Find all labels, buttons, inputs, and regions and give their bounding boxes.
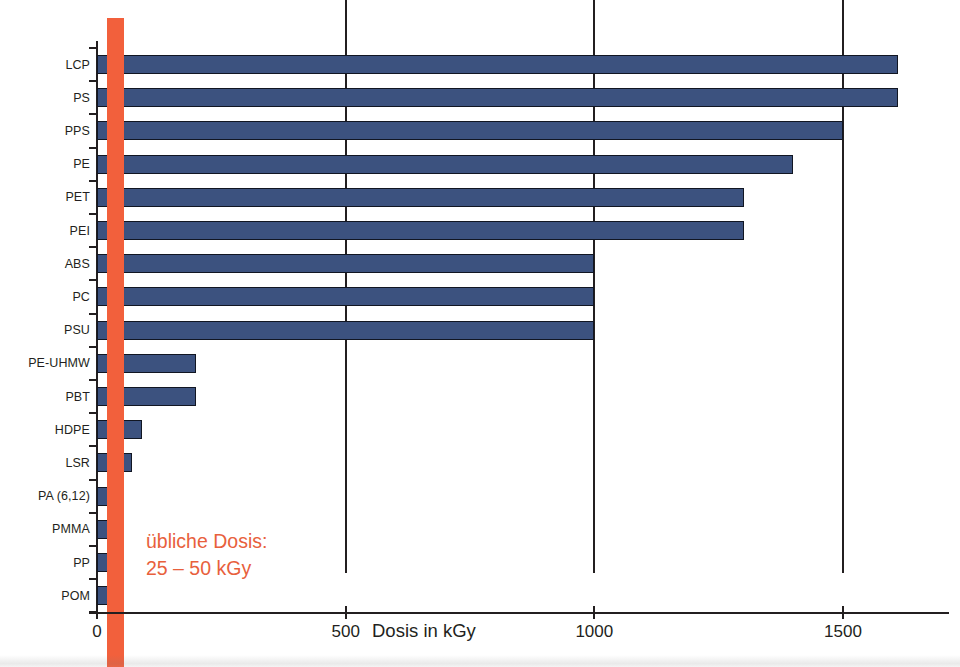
category-label-pbt: PBT (2, 390, 90, 404)
x-tick-label-1500: 1500 (824, 622, 862, 642)
x-tick-label-1000: 1000 (575, 622, 613, 642)
category-label-abs: ABS (2, 257, 90, 271)
y-tick (89, 346, 98, 348)
x-tick-label-500: 500 (331, 622, 359, 642)
y-tick (89, 611, 98, 613)
category-label-pet: PET (2, 190, 90, 204)
y-tick (89, 180, 98, 182)
category-label-pei: PEI (2, 224, 90, 238)
bar-chart: LCPPSPPSPEPETPEIABSPCPSUPE-UHMWPBTHDPELS… (0, 0, 960, 667)
y-tick (89, 412, 98, 414)
category-label-pmma: PMMA (2, 522, 90, 536)
bar-pe (97, 155, 793, 174)
x-tick-500 (345, 606, 347, 619)
dose-band-marker (107, 18, 123, 667)
category-label-pc: PC (2, 290, 90, 304)
category-label-lcp: LCP (2, 58, 90, 72)
y-tick (89, 246, 98, 248)
dose-annotation-line1: übliche Dosis: (146, 528, 267, 555)
category-axis-labels: LCPPSPPSPEPETPEIABSPCPSUPE-UHMWPBTHDPELS… (0, 0, 90, 667)
y-tick (89, 512, 98, 514)
category-label-pps: PPS (2, 124, 90, 138)
bar-pps (97, 121, 843, 140)
bar-ps (97, 88, 898, 107)
category-label-hdpe: HDPE (2, 423, 90, 437)
y-tick (89, 578, 98, 580)
category-label-pa-6-12: PA (6,12) (2, 489, 90, 503)
x-tick-1000 (593, 606, 595, 619)
bar-pet (97, 188, 744, 207)
x-axis-line (89, 612, 949, 614)
y-tick (89, 479, 98, 481)
dose-annotation: übliche Dosis: 25 – 50 kGy (146, 528, 267, 582)
y-tick (89, 113, 98, 115)
bar-pc (97, 287, 594, 306)
bar-abs (97, 254, 594, 273)
x-tick-label-0: 0 (92, 622, 101, 642)
scan-artifact (0, 655, 960, 667)
dose-annotation-line2: 25 – 50 kGy (146, 555, 267, 582)
x-axis-title: Dosis in kGy (372, 620, 476, 642)
y-tick (89, 147, 98, 149)
bar-lcp (97, 55, 898, 74)
y-tick (89, 545, 98, 547)
category-label-lsr: LSR (2, 456, 90, 470)
gridline-1500 (842, 0, 844, 573)
y-tick (89, 213, 98, 215)
category-label-pe: PE (2, 157, 90, 171)
bar-pei (97, 221, 744, 240)
category-label-pe-uhmw: PE-UHMW (2, 356, 90, 370)
y-tick (89, 80, 98, 82)
category-label-psu: PSU (2, 323, 90, 337)
y-tick (89, 313, 98, 315)
y-tick (89, 445, 98, 447)
category-label-pom: POM (2, 589, 90, 603)
bar-psu (97, 321, 594, 340)
y-tick (89, 47, 98, 49)
category-label-pp: PP (2, 556, 90, 570)
y-tick (89, 279, 98, 281)
y-tick (89, 379, 98, 381)
category-label-ps: PS (2, 91, 90, 105)
x-tick-1500 (842, 606, 844, 619)
